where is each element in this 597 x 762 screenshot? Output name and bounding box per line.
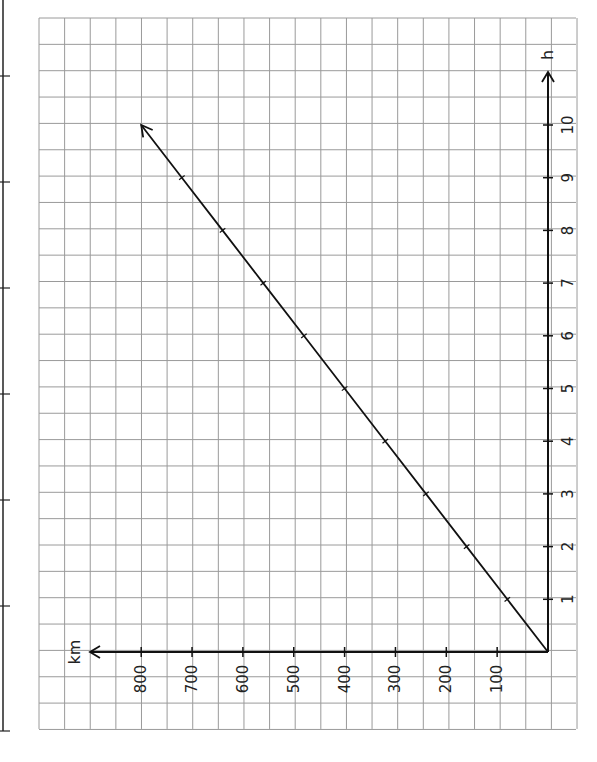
chart-stage: 12345678910 100200300400500600700800 hkm	[0, 0, 597, 762]
grid-paper	[39, 18, 577, 729]
axis-labels: hkm	[65, 50, 557, 665]
hour-tick-label: 5	[559, 384, 577, 394]
km-tick-label: 700	[183, 665, 201, 694]
hour-tick-label: 4	[559, 436, 577, 446]
km-tick-label: 100	[488, 665, 506, 694]
distance-line	[141, 125, 548, 652]
hour-tick-label: 3	[559, 489, 577, 499]
km-axis-ticks: 100200300400500600700800	[132, 647, 506, 693]
km-tick-label: 500	[285, 665, 303, 694]
page-border-left	[0, 0, 10, 731]
hour-tick-label: 10	[559, 115, 577, 134]
hour-axis-label: h	[538, 50, 557, 60]
hour-tick-label: 9	[559, 173, 577, 183]
km-tick-label: 300	[386, 665, 404, 694]
hour-tick-label: 1	[559, 595, 577, 605]
hour-tick-label: 2	[559, 542, 577, 552]
hour-tick-label: 6	[559, 331, 577, 341]
hour-tick-label: 7	[559, 278, 577, 288]
km-tick-label: 200	[437, 665, 455, 694]
km-tick-label: 800	[132, 665, 150, 694]
km-tick-label: 600	[234, 665, 252, 694]
hour-tick-label: 8	[559, 226, 577, 236]
km-tick-label: 400	[336, 665, 354, 694]
distance-time-chart: 12345678910 100200300400500600700800 hkm	[0, 0, 597, 762]
km-axis-label: km	[65, 640, 84, 665]
